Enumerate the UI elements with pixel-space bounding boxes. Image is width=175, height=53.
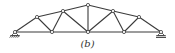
truss-joint — [86, 3, 89, 6]
truss-joint — [61, 9, 64, 12]
truss-joint — [159, 30, 162, 33]
truss-joint — [137, 15, 140, 18]
truss-joint — [111, 9, 114, 12]
truss-member — [113, 11, 139, 17]
truss-member — [52, 11, 63, 32]
truss-member — [37, 17, 52, 32]
truss-member — [139, 17, 161, 32]
truss-member — [37, 11, 63, 17]
truss-member — [63, 11, 88, 32]
truss-member — [15, 17, 37, 32]
truss-member — [113, 11, 124, 32]
truss-joint — [122, 30, 125, 33]
truss-joint — [86, 30, 89, 33]
figure-caption: (b) — [0, 38, 175, 49]
truss-joint — [35, 15, 38, 18]
truss-member — [124, 17, 139, 32]
truss-member — [88, 11, 113, 32]
truss-member — [63, 5, 88, 11]
truss-joint — [13, 30, 16, 33]
truss-member — [88, 5, 113, 11]
truss-joint — [50, 30, 53, 33]
